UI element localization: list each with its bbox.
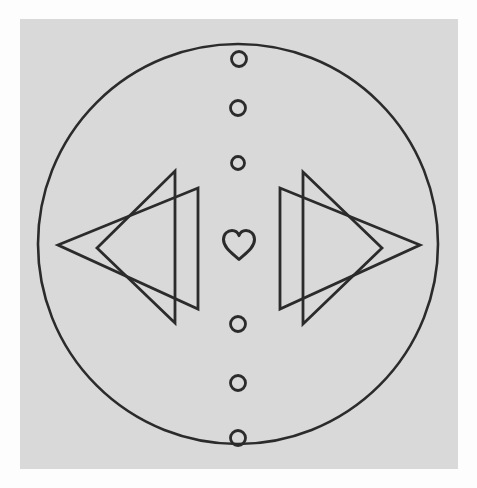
artwork-canvas <box>0 0 477 488</box>
emblem-drawing <box>0 0 477 488</box>
triangle-group <box>58 171 420 324</box>
dot-2 <box>231 101 246 116</box>
right-front-triangle <box>280 188 420 309</box>
left-front-triangle <box>58 188 198 309</box>
dot-1 <box>232 52 247 67</box>
dot-5 <box>231 376 246 391</box>
heart-icon <box>224 231 255 260</box>
left-back-triangle <box>97 171 175 323</box>
dot-3 <box>232 157 245 170</box>
right-back-triangle <box>303 172 382 324</box>
center-heart-group <box>224 231 255 260</box>
dot-column-group <box>231 52 247 446</box>
dot-4 <box>231 317 246 332</box>
